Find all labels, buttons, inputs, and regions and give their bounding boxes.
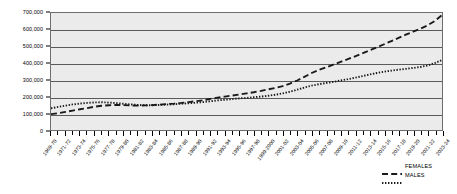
x-tick-label: 2011-12 bbox=[347, 138, 363, 156]
x-tick-mark bbox=[385, 131, 386, 136]
x-tick-mark bbox=[72, 131, 73, 135]
x-tick-label: 2003-04 bbox=[288, 138, 304, 157]
x-tick-mark bbox=[86, 131, 87, 135]
x-tick-label: 1985-86 bbox=[157, 138, 173, 157]
x-tick-label: 1983-84 bbox=[143, 138, 159, 157]
x-tick-mark bbox=[130, 131, 131, 135]
legend-item[interactable]: MALES bbox=[382, 172, 432, 178]
x-tick-mark bbox=[276, 131, 277, 135]
x-tick-mark bbox=[65, 131, 66, 136]
x-tick-label: 2015-16 bbox=[376, 138, 392, 157]
line-chart: 0100,000200,000300,000400,000500,000600,… bbox=[0, 0, 457, 194]
x-tick-mark bbox=[327, 131, 328, 136]
x-tick-mark bbox=[79, 131, 80, 136]
chart-legend: FEMALESMALES bbox=[382, 163, 432, 178]
x-tick-label: 1975-76 bbox=[84, 138, 100, 157]
x-tick-label: 1995-96 bbox=[230, 138, 246, 157]
x-tick-mark bbox=[188, 131, 189, 135]
x-tick-mark bbox=[181, 131, 182, 136]
x-tick-label: 2013-14 bbox=[361, 138, 377, 157]
x-tick-mark bbox=[225, 131, 226, 136]
legend-swatch-icon bbox=[382, 172, 402, 178]
x-tick-mark bbox=[436, 131, 437, 135]
x-tick-mark bbox=[268, 131, 269, 136]
x-tick-label: 1991-92 bbox=[201, 138, 217, 157]
x-tick-mark bbox=[312, 131, 313, 136]
x-tick-mark bbox=[166, 131, 167, 136]
x-tick-mark bbox=[261, 131, 262, 135]
x-tick-mark bbox=[341, 131, 342, 136]
x-tick-mark bbox=[392, 131, 393, 135]
x-tick-label: 1979-80 bbox=[114, 138, 130, 157]
x-tick-mark bbox=[319, 131, 320, 135]
x-tick-mark bbox=[290, 131, 291, 135]
legend-label: FEMALES bbox=[405, 163, 432, 169]
x-tick-mark bbox=[101, 131, 102, 135]
x-tick-mark bbox=[247, 131, 248, 135]
x-tick-mark bbox=[108, 131, 109, 136]
plot-area bbox=[50, 12, 443, 131]
y-tick-label: 0 bbox=[40, 128, 43, 134]
x-tick-mark bbox=[50, 131, 51, 136]
x-tick-label: 1987-88 bbox=[172, 138, 188, 157]
legend-label: MALES bbox=[405, 172, 425, 178]
y-axis: 0100,000200,000300,000400,000500,000600,… bbox=[0, 0, 50, 143]
x-tick-mark bbox=[254, 131, 255, 136]
x-tick-mark bbox=[152, 131, 153, 136]
x-tick-label: 2021-22 bbox=[419, 138, 435, 157]
x-tick-mark bbox=[210, 131, 211, 136]
x-tick-mark bbox=[363, 131, 364, 135]
x-tick-label: 1981-82 bbox=[128, 138, 144, 157]
x-tick-mark bbox=[283, 131, 284, 136]
x-tick-label: 1977-78 bbox=[99, 138, 115, 157]
x-tick-mark bbox=[370, 131, 371, 136]
x-tick-mark bbox=[159, 131, 160, 135]
x-tick-mark bbox=[174, 131, 175, 135]
x-tick-label: 1973-74 bbox=[70, 138, 86, 157]
x-tick-label: 2023-24 bbox=[434, 138, 450, 157]
x-tick-label: 2009-10 bbox=[332, 138, 348, 157]
x-tick-mark bbox=[137, 131, 138, 136]
x-tick-mark bbox=[428, 131, 429, 136]
x-tick-mark bbox=[232, 131, 233, 135]
y-tick-label: 700,000 bbox=[23, 9, 43, 15]
y-tick-label: 600,000 bbox=[23, 26, 43, 32]
x-tick-mark bbox=[94, 131, 95, 136]
y-tick-label: 400,000 bbox=[23, 60, 43, 66]
legend-swatch-icon bbox=[382, 163, 402, 169]
x-tick-mark bbox=[297, 131, 298, 136]
x-tick-mark bbox=[57, 131, 58, 135]
x-tick-mark bbox=[116, 131, 117, 135]
x-tick-mark bbox=[348, 131, 349, 135]
series-line-females bbox=[51, 15, 442, 114]
x-tick-label: 2017-18 bbox=[390, 138, 406, 157]
x-tick-mark bbox=[414, 131, 415, 136]
x-tick-label: 1993-94 bbox=[215, 138, 231, 157]
x-tick-mark bbox=[399, 131, 400, 136]
y-tick-label: 100,000 bbox=[23, 111, 43, 117]
x-tick-mark bbox=[378, 131, 379, 135]
x-tick-mark bbox=[334, 131, 335, 135]
x-tick-mark bbox=[196, 131, 197, 136]
x-tick-label: 2005-06 bbox=[303, 138, 319, 157]
x-tick-mark bbox=[443, 131, 444, 136]
legend-item[interactable]: FEMALES bbox=[382, 163, 432, 169]
y-tick-label: 300,000 bbox=[23, 77, 43, 83]
x-tick-mark bbox=[239, 131, 240, 136]
y-tick-label: 200,000 bbox=[23, 94, 43, 100]
x-tick-mark bbox=[356, 131, 357, 136]
x-tick-mark bbox=[421, 131, 422, 135]
x-tick-mark bbox=[407, 131, 408, 135]
x-tick-mark bbox=[217, 131, 218, 135]
x-tick-mark bbox=[145, 131, 146, 135]
series-line-males bbox=[51, 60, 442, 108]
series-layer bbox=[51, 13, 442, 130]
x-tick-mark bbox=[203, 131, 204, 135]
x-tick-mark bbox=[123, 131, 124, 136]
x-tick-label: 2019-20 bbox=[405, 138, 421, 157]
x-tick-mark bbox=[305, 131, 306, 135]
y-tick-label: 500,000 bbox=[23, 43, 43, 49]
